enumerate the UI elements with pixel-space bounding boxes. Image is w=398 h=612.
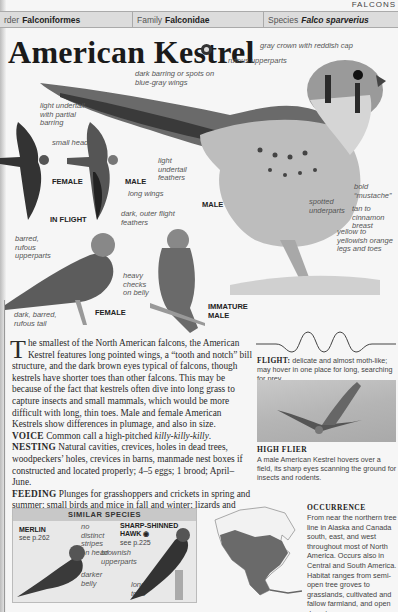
label-long-wings: long wings bbox=[128, 190, 163, 199]
caption-immature-male: IMMATURE MALE bbox=[208, 302, 258, 320]
species-value: Falco sparverius bbox=[301, 15, 369, 25]
occurrence-text: From near the northern tree line in Alas… bbox=[307, 513, 398, 612]
similar-species-box: SIMILAR SPECIES MERLIN see p.262 no dist… bbox=[12, 508, 197, 603]
voice-text: Common call a high-pitched bbox=[46, 431, 154, 441]
dropcap: T bbox=[10, 340, 26, 360]
label-small-head: small head bbox=[52, 139, 88, 148]
caption-perched-female: FEMALE bbox=[95, 308, 126, 317]
merlin-illustration bbox=[17, 539, 87, 601]
order-label: rder bbox=[4, 15, 19, 25]
intro-text: he smallest of the North American falcon… bbox=[12, 338, 252, 429]
label-dark-outer-feathers: dark, outer flight feathers bbox=[121, 210, 181, 227]
label-heavy-checks: heavy checks on belly bbox=[123, 272, 153, 298]
intro-paragraph: The smallest of the North American falco… bbox=[12, 338, 252, 431]
voice-call: killy-killy-killy bbox=[155, 431, 209, 441]
taxonomy-bar: rder Falconiformes Family Falconidae Spe… bbox=[0, 11, 398, 28]
label-rufous-upperparts: rufous upperparts bbox=[228, 57, 287, 66]
field-guide-page: FALCONS rder Falconiformes Family Falcon… bbox=[0, 0, 398, 612]
range-map bbox=[210, 505, 305, 605]
caption-in-flight: IN FLIGHT bbox=[50, 215, 87, 224]
flight-pattern-icon bbox=[256, 328, 396, 354]
taxonomy-order: rder Falconiformes bbox=[0, 12, 133, 27]
caption-male: MALE bbox=[202, 200, 223, 209]
similar-species-heading: SIMILAR SPECIES bbox=[13, 509, 196, 521]
label-barred-tail: dark, barred, rufous tail bbox=[14, 311, 59, 328]
family-label: Family bbox=[137, 15, 162, 25]
nesting-label: NESTING bbox=[12, 442, 56, 452]
label-bold-mustache: bold “mustache” bbox=[354, 183, 398, 200]
label-barred-upperparts: barred, rufous upperparts bbox=[15, 235, 60, 261]
photo-caption: A male American Kestrel hovers over a fi… bbox=[257, 455, 397, 482]
photo-title: HIGH FLIER bbox=[257, 445, 307, 454]
label-light-undertail-feathers: light undertail feathers bbox=[158, 157, 198, 183]
voice-label: VOICE bbox=[12, 431, 44, 441]
occurrence-title: OCCURRENCE bbox=[307, 503, 366, 512]
column-rule bbox=[4, 300, 5, 612]
voice-paragraph: VOICE Common call a high-pitched killy-k… bbox=[12, 431, 252, 443]
label-spotted-underparts: spotted underparts bbox=[309, 198, 355, 215]
caption-flight-male: MALE bbox=[125, 177, 146, 186]
species-description: The smallest of the North American falco… bbox=[12, 338, 252, 524]
species-label: Species bbox=[268, 15, 298, 25]
family-value: Falconidae bbox=[165, 15, 209, 25]
immature-male-illustration bbox=[150, 228, 210, 338]
female-in-flight-illustration bbox=[0, 122, 60, 222]
merlin-name: MERLIN bbox=[19, 526, 46, 534]
label-dark-barring: dark barring or spots on blue-gray wings bbox=[135, 70, 225, 87]
order-value: Falconiformes bbox=[22, 15, 80, 25]
label-yellow-legs: yellow to yellowish orange legs and toes bbox=[337, 228, 397, 254]
section-tag: FALCONS bbox=[352, 0, 396, 9]
voice-end: . bbox=[209, 431, 211, 441]
caption-flight-female: FEMALE bbox=[52, 177, 83, 186]
nesting-paragraph: NESTING Natural cavities, crevices, hole… bbox=[12, 442, 252, 488]
taxonomy-species: Species Falco sparverius bbox=[264, 12, 398, 27]
male-in-flight-illustration bbox=[65, 122, 125, 222]
label-gray-crown: gray crown with reddish cap bbox=[260, 42, 353, 51]
taxonomy-family: Family Falconidae bbox=[133, 12, 264, 27]
sharp-shinned-illustration bbox=[125, 525, 195, 603]
flight-label: FLIGHT: bbox=[257, 356, 290, 365]
high-flier-photo bbox=[257, 380, 396, 442]
feeding-label: FEEDING bbox=[12, 489, 56, 499]
